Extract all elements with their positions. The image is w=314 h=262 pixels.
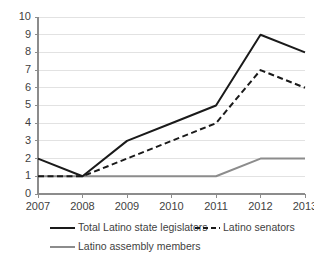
- y-tick-label: 5: [25, 98, 31, 110]
- legend-label-3: Latino assembly members: [78, 240, 201, 252]
- y-tick-label: 8: [25, 45, 31, 57]
- x-tick-label: 2007: [26, 200, 50, 212]
- x-tick-label: 2012: [248, 200, 272, 212]
- x-tick-labels: 2007200820092010201120122013: [26, 200, 314, 212]
- y-tick-label: 2: [25, 152, 31, 164]
- y-tick-label: 6: [25, 81, 31, 93]
- gridlines: [38, 17, 305, 176]
- chart-canvas: 012345678910 200720082009201020112012201…: [0, 0, 314, 262]
- y-tick-label: 3: [25, 134, 31, 146]
- legend-label-1: Total Latino state legislators: [78, 221, 208, 233]
- x-tick-label: 2013: [293, 200, 314, 212]
- y-tick-label: 10: [19, 10, 31, 22]
- y-tick-label: 7: [25, 63, 31, 75]
- chart-legend: Total Latino state legislatorsLatino sen…: [50, 221, 295, 252]
- y-axis: [35, 17, 39, 194]
- x-tick-label: 2010: [159, 200, 183, 212]
- x-axis: [38, 194, 305, 198]
- y-tick-label: 9: [25, 28, 31, 40]
- y-tick-labels: 012345678910: [19, 10, 31, 199]
- y-tick-label: 1: [25, 169, 31, 181]
- legend-label-2: Latino senators: [223, 221, 295, 233]
- x-tick-label: 2011: [204, 200, 228, 212]
- y-tick-label: 4: [25, 116, 31, 128]
- x-tick-label: 2008: [70, 200, 94, 212]
- line-chart: 012345678910 200720082009201020112012201…: [0, 0, 314, 262]
- y-tick-label: 0: [25, 187, 31, 199]
- x-tick-label: 2009: [115, 200, 139, 212]
